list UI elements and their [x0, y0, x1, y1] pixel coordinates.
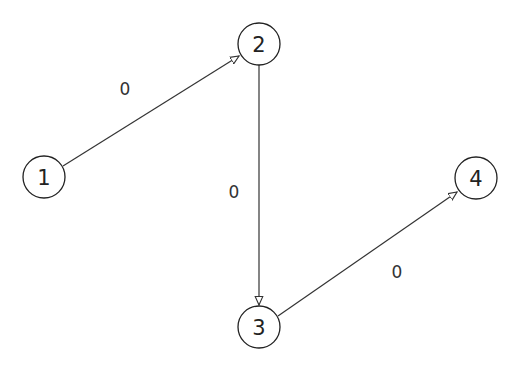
- svg-text:4: 4: [469, 167, 482, 191]
- node-2: 2: [238, 23, 280, 65]
- node-4: 4: [455, 157, 497, 199]
- edge-label-1-2: 0: [120, 79, 131, 99]
- svg-text:3: 3: [252, 316, 265, 340]
- svg-text:1: 1: [37, 166, 50, 190]
- node-3: 3: [238, 306, 280, 348]
- node-1: 1: [23, 156, 65, 198]
- edge-3-4: [278, 192, 457, 316]
- edge-label-2-3: 0: [229, 182, 240, 202]
- edge-1-2: [63, 56, 239, 166]
- graph-canvas: 0 0 0 1 2 3 4: [0, 0, 516, 369]
- edge-label-3-4: 0: [392, 262, 403, 282]
- svg-text:2: 2: [252, 33, 265, 57]
